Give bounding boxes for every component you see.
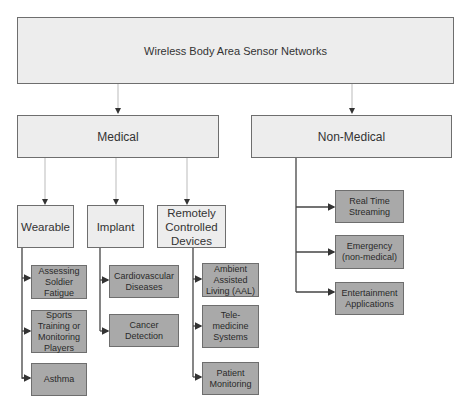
leaf-sports-training: Sports Training or Monitoring Players bbox=[31, 310, 87, 353]
leaf-telemedicine: Tele-medicine Systems bbox=[202, 305, 259, 348]
leaf-real-time-streaming: Real Time Streaming bbox=[335, 190, 404, 223]
leaf-emergency: Emergency (non-medical) bbox=[335, 235, 404, 269]
medical-label: Medical bbox=[97, 130, 138, 144]
leaf-label: Asthma bbox=[44, 374, 75, 385]
non-medical-label: Non-Medical bbox=[318, 130, 385, 144]
wearable-node: Wearable bbox=[17, 205, 74, 248]
wearable-trunk bbox=[22, 248, 30, 378]
leaf-label: Patient Monitoring bbox=[203, 368, 258, 390]
leaf-label: Real Time Streaming bbox=[336, 196, 403, 218]
implant-label: Implant bbox=[97, 220, 135, 234]
leaf-label: Entertainment Applications bbox=[336, 288, 403, 310]
root-label: Wireless Body Area Sensor Networks bbox=[144, 45, 327, 57]
leaf-label: Assessing Soldier Fatigue bbox=[32, 266, 86, 299]
root-node: Wireless Body Area Sensor Networks bbox=[17, 17, 454, 84]
implant-node: Implant bbox=[87, 205, 144, 248]
leaf-entertainment: Entertainment Applications bbox=[335, 282, 404, 315]
leaf-label: Tele-medicine Systems bbox=[203, 310, 258, 343]
wearable-label: Wearable bbox=[21, 220, 70, 234]
leaf-label: Cancer Detection bbox=[110, 320, 178, 342]
remote-devices-node: Remotely Controlled Devices bbox=[157, 205, 226, 248]
leaf-patient-monitoring: Patient Monitoring bbox=[202, 362, 259, 395]
leaf-aal: Ambient Assisted Living (AAL) bbox=[202, 263, 259, 297]
leaf-label: Cardiovascular Diseases bbox=[110, 271, 178, 293]
medical-node: Medical bbox=[17, 115, 219, 158]
non-medical-node: Non-Medical bbox=[251, 115, 452, 158]
leaf-label: Sports Training or Monitoring Players bbox=[32, 310, 86, 354]
remote-devices-label: Remotely Controlled Devices bbox=[160, 206, 223, 248]
leaf-soldier-fatigue: Assessing Soldier Fatigue bbox=[31, 265, 87, 299]
leaf-asthma: Asthma bbox=[31, 363, 87, 396]
leaf-label: Emergency (non-medical) bbox=[336, 241, 403, 263]
leaf-cardiovascular: Cardiovascular Diseases bbox=[109, 265, 179, 298]
leaf-label: Ambient Assisted Living (AAL) bbox=[203, 264, 258, 297]
leaf-cancer-detection: Cancer Detection bbox=[109, 314, 179, 347]
